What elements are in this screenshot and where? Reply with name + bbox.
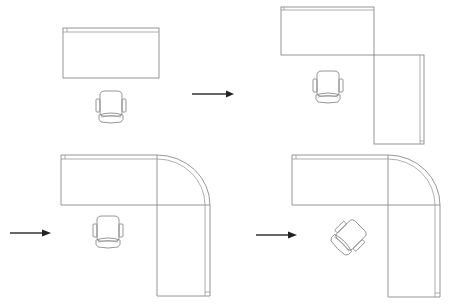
return-desk bbox=[388, 205, 440, 297]
rotated-office-chair-icon bbox=[327, 215, 371, 259]
main-desk bbox=[292, 155, 388, 205]
return-desk bbox=[157, 205, 210, 296]
main-desk bbox=[61, 155, 157, 205]
workstation-layout-diagram: Office workstation layout progression bbox=[0, 0, 449, 307]
curved-corner bbox=[388, 155, 440, 205]
step-4-curved-l-desk-rotated-chair bbox=[292, 155, 440, 297]
right-arrow-icon bbox=[256, 232, 297, 239]
return-desk bbox=[374, 55, 424, 144]
rectangular-desk bbox=[63, 28, 159, 78]
curved-corner bbox=[157, 155, 210, 205]
office-chair-icon bbox=[93, 216, 123, 248]
step-3-curved-l-desk bbox=[61, 155, 210, 296]
step-1-straight-desk bbox=[63, 28, 159, 123]
main-desk bbox=[281, 7, 374, 55]
step-2-l-shaped-desk bbox=[281, 7, 424, 144]
right-arrow-icon bbox=[10, 230, 51, 237]
office-chair-icon bbox=[96, 91, 126, 123]
office-chair-icon bbox=[313, 71, 343, 103]
right-arrow-icon bbox=[192, 91, 234, 98]
